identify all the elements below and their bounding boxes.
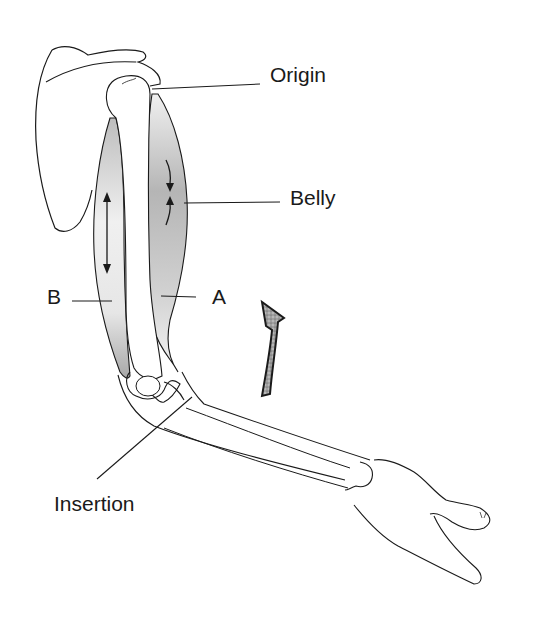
- radius-bone: [186, 408, 350, 468]
- thumbnail-detail: [480, 512, 486, 518]
- arm-outline-front: [182, 372, 370, 460]
- hand-outline: [354, 460, 490, 584]
- arm-muscle-diagram: [0, 0, 535, 634]
- curved-up-arrow-icon: [262, 302, 284, 396]
- label-belly: Belly: [290, 187, 336, 208]
- label-origin: Origin: [270, 64, 326, 85]
- wrist: [345, 462, 373, 490]
- label-insertion: Insertion: [54, 493, 135, 514]
- leader-insertion: [97, 397, 192, 479]
- label-a: A: [212, 286, 226, 307]
- leader-origin: [152, 84, 260, 89]
- label-b: B: [47, 286, 61, 307]
- leader-belly: [184, 202, 280, 203]
- elbow-condyle: [136, 376, 160, 396]
